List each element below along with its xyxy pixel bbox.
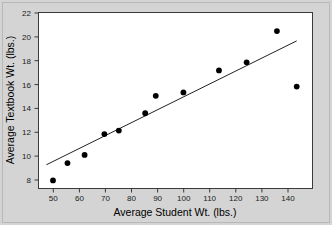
y-tick-label-14: 14 — [22, 104, 31, 113]
y-tick-label-8: 8 — [27, 176, 32, 185]
y-tick-label-16: 16 — [22, 81, 31, 90]
scatter-plot: 22 20 18 16 14 12 10 8 50 60 70 80 9 — [0, 0, 332, 225]
x-tick-label-80: 80 — [127, 194, 136, 203]
x-tick-label-120: 120 — [229, 194, 243, 203]
y-axis-ticks — [35, 13, 39, 180]
x-tick-label-140: 140 — [281, 194, 295, 203]
chart-figure: 22 20 18 16 14 12 10 8 50 60 70 80 9 — [0, 0, 332, 225]
data-point — [244, 59, 250, 65]
y-tick-label-12: 12 — [22, 128, 31, 137]
data-point — [65, 160, 71, 166]
y-tick-label-18: 18 — [22, 57, 31, 66]
data-point — [181, 89, 187, 95]
data-point — [116, 128, 122, 134]
x-tick-label-110: 110 — [203, 194, 216, 203]
y-tick-label-20: 20 — [22, 33, 31, 42]
data-point — [50, 177, 56, 183]
x-tick-label-50: 50 — [49, 194, 58, 203]
y-axis-tick-labels: 22 20 18 16 14 12 10 8 — [22, 9, 31, 185]
data-point — [101, 131, 107, 137]
x-tick-label-70: 70 — [101, 194, 110, 203]
x-axis-ticks — [53, 189, 288, 193]
x-tick-label-100: 100 — [177, 194, 191, 203]
x-axis-tick-labels: 50 60 70 80 90 100 110 120 130 140 — [49, 194, 295, 203]
y-tick-label-10: 10 — [22, 152, 31, 161]
x-tick-label-90: 90 — [153, 194, 162, 203]
data-point — [216, 67, 222, 73]
x-tick-label-60: 60 — [75, 194, 84, 203]
x-tick-label-130: 130 — [255, 194, 269, 203]
y-axis-title: Average Textbook Wt. (lbs.) — [4, 36, 16, 165]
data-point — [153, 93, 159, 99]
data-point — [294, 84, 300, 90]
y-tick-label-22: 22 — [22, 9, 31, 18]
data-point — [274, 28, 280, 34]
x-axis-title: Average Student Wt. (lbs.) — [114, 206, 237, 218]
data-point — [82, 152, 88, 158]
data-point — [142, 110, 148, 116]
